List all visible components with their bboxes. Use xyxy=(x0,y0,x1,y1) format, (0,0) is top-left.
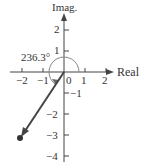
imag-axis-label: Imag. xyxy=(52,1,78,13)
y-tick-label: −4 xyxy=(46,150,58,162)
y-tick-label: −1 xyxy=(70,87,82,99)
y-tick-label: 2 xyxy=(54,23,60,35)
x-tick-label: −2 xyxy=(16,74,28,86)
angle-label: 236.3° xyxy=(21,51,50,63)
x-tick-label: 0 xyxy=(66,74,72,86)
imag-axis-arrow-icon xyxy=(61,13,67,21)
imag-axis xyxy=(61,13,69,162)
y-tick-label: −3 xyxy=(46,129,58,141)
x-tick-label: 2 xyxy=(102,74,108,86)
x-tick-label: −1 xyxy=(37,74,49,86)
y-tick-label: −2 xyxy=(46,108,58,120)
x-tick-label: 1 xyxy=(81,74,87,86)
y-tick-label: 1 xyxy=(54,44,60,56)
complex-point xyxy=(17,135,23,141)
real-axis-label: Real xyxy=(117,65,140,79)
complex-plane-diagram: Real −2 −1 0 1 2 Imag. 2 1 −1 −2 −3 −4 2… xyxy=(0,0,143,165)
